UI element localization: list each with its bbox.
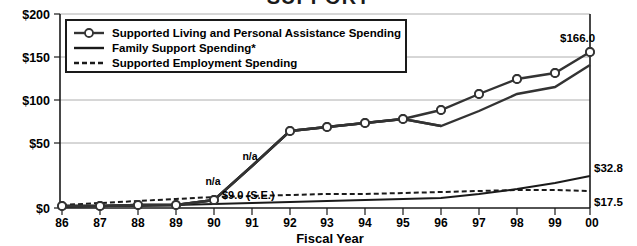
y-axis-labels: $200 $150 $100 $50 $0: [22, 8, 50, 216]
legend-label-family-support: Family Support Spending*: [112, 42, 256, 54]
x-tick-label: 89: [169, 216, 183, 230]
end-label-supported-living: $166.0: [560, 32, 595, 44]
x-tick-label: 00: [585, 216, 599, 230]
x-tick-label: 93: [320, 216, 334, 230]
y-tick-label: $50: [29, 137, 50, 151]
y-tick-label: $0: [36, 202, 50, 216]
y-tick-label: $200: [22, 8, 50, 22]
y-tick-marks: [54, 14, 60, 208]
end-label-family-support: $32.8: [594, 162, 623, 174]
x-tick-label: 96: [434, 216, 448, 230]
annotation-na-2: n/a: [242, 150, 257, 162]
annotation-se-value: $9.0 (S.E.): [222, 189, 275, 201]
chart-legend: Supported Living and Personal Assistance…: [66, 20, 406, 72]
x-tick-label: 92: [283, 216, 297, 230]
x-tick-label: 88: [131, 216, 145, 230]
legend-label-supported-employment: Supported Employment Spending: [112, 57, 297, 69]
legend-label-supported-living: Supported Living and Personal Assistance…: [112, 27, 401, 39]
line-chart: $200 $150 $100 $50 $0 86 87: [0, 0, 637, 246]
x-tick-label: 91: [245, 216, 259, 230]
end-label-supported-employment: $17.5: [594, 196, 623, 208]
x-tick-label: 95: [396, 216, 410, 230]
x-tick-label: 97: [472, 216, 486, 230]
y-tick-label: $150: [22, 51, 50, 65]
x-tick-label: 99: [548, 216, 562, 230]
x-tick-marks: [62, 208, 590, 215]
series-supported-living-main: [62, 65, 590, 206]
x-axis-labels: 86 87 88 89 90 91 92 93 94 95 96 97 98 9…: [55, 216, 599, 230]
x-tick-label: 90: [207, 216, 221, 230]
y-tick-label: $100: [22, 94, 50, 108]
x-tick-label: 94: [358, 216, 372, 230]
annotation-na-1: n/a: [205, 175, 220, 187]
x-axis-title: Fiscal Year: [296, 231, 364, 246]
x-tick-label: 87: [93, 216, 107, 230]
x-tick-label: 86: [55, 216, 69, 230]
x-tick-label: 98: [510, 216, 524, 230]
chart-container: SUPPORT $200 $150 $100 $50: [0, 0, 637, 246]
